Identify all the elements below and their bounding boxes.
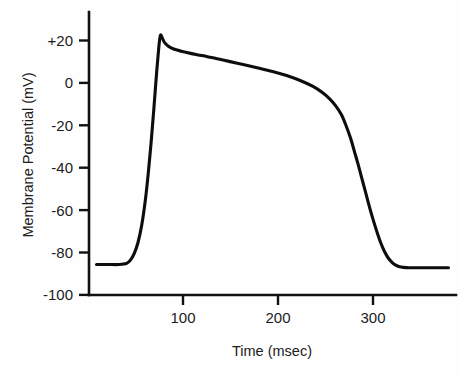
action-potential-chart: +20 0 -20 -40 -60 -80 -100 100 200 300 M… [0,0,460,378]
action-potential-trace [97,35,449,268]
x-tick-label-200: 200 [265,309,290,326]
y-tick-label-minus40: -40 [51,159,73,176]
figure-container: +20 0 -20 -40 -60 -80 -100 100 200 300 M… [0,0,460,378]
y-tick-label-0: 0 [65,74,73,91]
x-axis-title: Time (msec) [232,343,312,359]
y-tick-label-minus60: -60 [51,202,73,219]
y-tick-label-minus80: -80 [51,244,73,261]
x-tick-label-100: 100 [170,309,195,326]
y-axis-title: Membrane Potential (mV) [20,72,36,237]
x-tick-marks [183,295,373,305]
y-tick-label-20: +20 [48,32,73,49]
y-tick-label-minus100: -100 [43,286,73,303]
y-tick-label-minus20: -20 [51,117,73,134]
y-tick-marks [79,41,89,295]
x-tick-label-300: 300 [360,309,385,326]
